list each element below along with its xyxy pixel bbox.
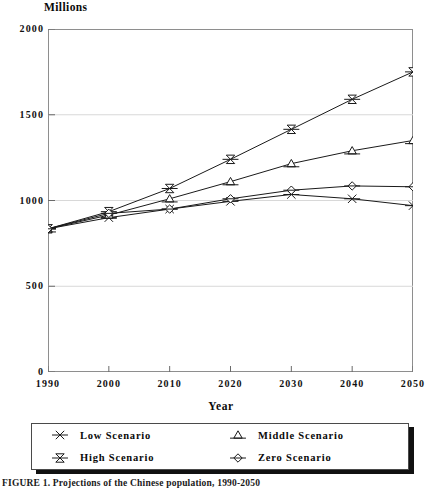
x-tick-label: 2000: [97, 378, 121, 389]
asterisk-marker-icon: [46, 428, 74, 442]
y-tick-label: 2000: [2, 23, 44, 34]
x-tick-label: 2020: [218, 378, 242, 389]
legend-item-label: High Scenario: [80, 452, 154, 463]
x-tick-label: 1990: [36, 378, 60, 389]
figure-container: Millions 0500100015002000 19902000201020…: [0, 0, 442, 488]
x-tick-label: 2050: [401, 378, 425, 389]
series-line: [48, 186, 413, 229]
legend-item-low-scenario: Low Scenario: [46, 428, 224, 442]
legend-box: Low ScenarioMiddle ScenarioHigh Scenario…: [31, 423, 409, 470]
x-axis-title: Year: [0, 400, 442, 412]
y-tick-label: 1500: [2, 109, 44, 120]
triangle-marker-icon: [224, 428, 252, 442]
legend-item-high-scenario: High Scenario: [46, 451, 224, 465]
y-tick-label: 1000: [2, 195, 44, 206]
legend-item-label: Middle Scenario: [258, 430, 344, 441]
series-zero-scenario: [48, 182, 413, 233]
legend-item-middle-scenario: Middle Scenario: [224, 428, 424, 442]
figure-caption: FIGURE 1. Projections of the Chinese pop…: [2, 478, 440, 488]
legend-item-label: Low Scenario: [80, 430, 151, 441]
chart-plot-area: [48, 29, 413, 372]
diamond-marker-icon: [224, 451, 252, 465]
bowtie-marker-icon: [46, 451, 74, 465]
series-high-scenario: [48, 68, 413, 233]
y-tick-label: 500: [2, 280, 44, 291]
legend-item-label: Zero Scenario: [258, 452, 332, 463]
x-tick-label: 2040: [340, 378, 364, 389]
y-axis-unit-title: Millions: [44, 1, 87, 13]
x-tick-label: 2030: [279, 378, 303, 389]
legend-item-zero-scenario: Zero Scenario: [224, 451, 424, 465]
series-line: [48, 72, 413, 229]
y-tick-label: 0: [2, 366, 44, 377]
x-tick-label: 2010: [157, 378, 181, 389]
